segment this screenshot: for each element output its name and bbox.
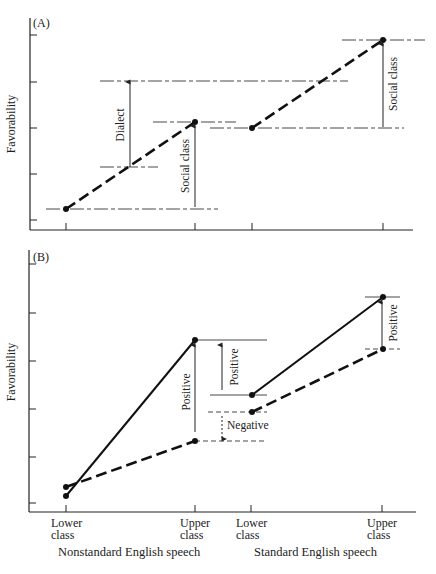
panel-b: (B) Favorability [4,250,416,512]
panel-a-y-ticks [30,35,37,220]
x-tick-upper-nonstandard-2: class [180,528,204,542]
annotation-negative: Negative [227,419,269,432]
panel-b-y-label: Favorability [4,343,18,402]
panel-a-tag: (A) [33,16,50,30]
panel-b-points [63,294,386,499]
panel-b-arrows [195,302,382,439]
panel-b-x-ticks [66,505,382,512]
panel-a-y-label: Favorability [4,95,18,154]
x-group-nonstandard: Nonstandard English speech [58,545,201,559]
series-nonstandard-solid [66,340,195,496]
x-axis-labels: Lower class Upper class Lower class Uppe… [51,516,397,559]
panel-a-x-ticks [66,223,383,230]
panel-b-series [66,297,383,496]
panel-b-tag: (B) [33,250,49,264]
annotation-social-class-standard: Social class [387,56,399,110]
x-group-standard: Standard English speech [254,545,378,559]
x-tick-upper-standard-2: class [367,528,391,542]
annotation-positive-standard: Positive [387,304,399,341]
panel-b-y-ticks [29,264,36,503]
annotation-positive-nonstandard: Positive [180,373,192,410]
panel-b-reference-solid [195,297,400,395]
panel-a-reference-lines [46,40,425,209]
x-tick-lower-standard-2: class [236,528,260,542]
x-tick-lower-nonstandard-2: class [51,528,75,542]
series-nonstandard-dashed [66,441,195,487]
series-standard-line [252,40,383,128]
figure: (A) Favorability [0,0,436,574]
annotation-positive-between: Positive [228,348,240,385]
annotation-dialect: Dialect [114,108,126,142]
panel-a: (A) Favorability [4,16,425,230]
panel-a-points [63,37,386,212]
annotation-social-class-nonstandard: Social class [179,138,191,192]
